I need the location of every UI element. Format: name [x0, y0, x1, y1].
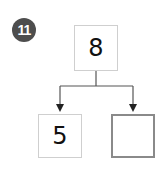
- whole-box: 8: [74, 25, 118, 71]
- part-box-left: 5: [38, 114, 82, 158]
- left-arrowhead-icon: [56, 104, 64, 112]
- part-box-right-empty[interactable]: [111, 114, 155, 158]
- right-arrowhead-icon: [129, 104, 137, 112]
